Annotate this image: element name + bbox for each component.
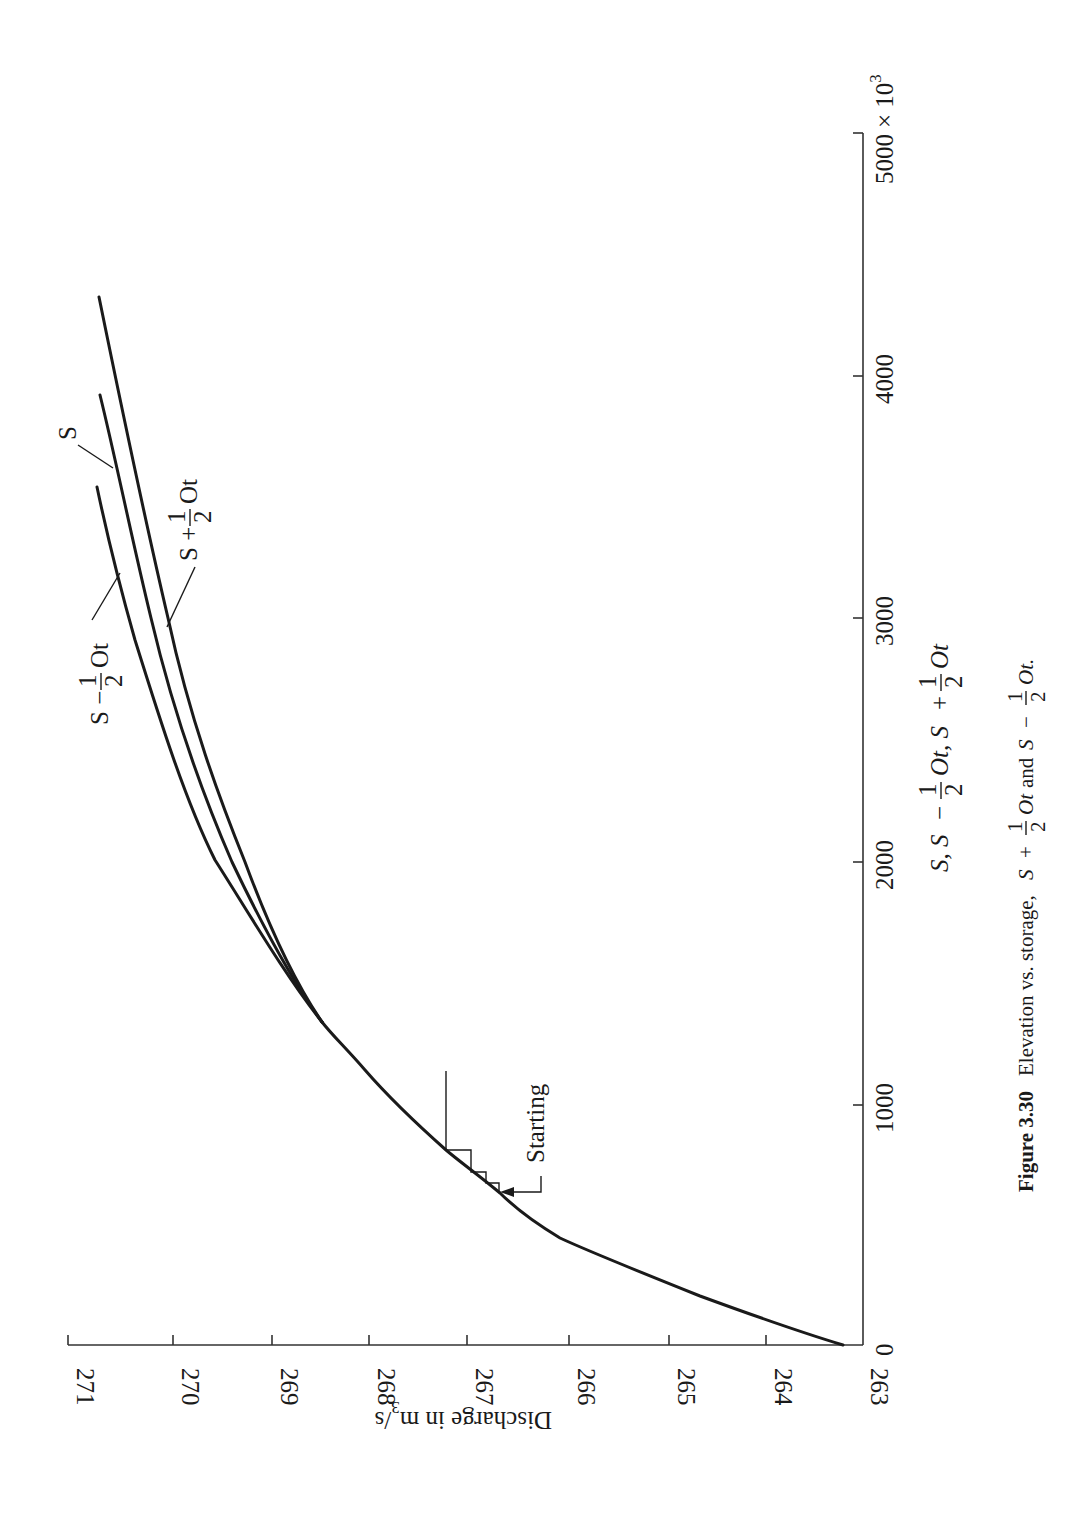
tick-4000: 4000 (871, 354, 898, 404)
starting-label: Starting (522, 1083, 549, 1163)
elevation-tick-labels: 271 270 269 268 267 266 265 264 263 (72, 1368, 893, 1406)
stair-steps (446, 1071, 499, 1193)
svg-text:S: S (1014, 869, 1038, 880)
tick-3000: 3000 (871, 596, 898, 646)
svg-text:S −: S − (86, 691, 113, 725)
caption-number: Figure 3.30 (1014, 1091, 1038, 1192)
svg-text:Ot: Ot (175, 479, 202, 504)
tick-0: 0 (871, 1344, 898, 1357)
svg-text:and: and (1014, 757, 1038, 788)
tick-5000-multiplier: 5000× 103 (866, 74, 898, 184)
plot-axes (68, 133, 863, 1345)
svg-text:2: 2 (100, 675, 127, 688)
svg-text:5000× 103: 5000× 103 (866, 74, 898, 184)
svg-text:1: 1 (1003, 692, 1027, 703)
svg-text:1: 1 (914, 676, 941, 689)
svg-text:2: 2 (1026, 822, 1050, 833)
svg-text:1: 1 (163, 511, 190, 524)
elevation-ticks (68, 1335, 766, 1345)
svg-text:+: + (926, 696, 953, 710)
storage-ticks (853, 133, 863, 1105)
tick-264: 264 (770, 1368, 797, 1406)
tick-269: 269 (276, 1368, 303, 1406)
storage-axis-label: S, S − 1 2 Ot, S + 1 2 Ot (914, 643, 967, 872)
svg-text:Ot, S: Ot, S (926, 726, 953, 777)
curve-common-lower (322, 1022, 843, 1345)
label-s-plus-half-ot: S + 1 2 Ot (163, 479, 216, 561)
svg-text:1: 1 (914, 784, 941, 797)
label-s-minus-half-ot: S − 1 2 Ot (74, 643, 127, 725)
tick-270: 270 (177, 1368, 204, 1406)
svg-text:2: 2 (1026, 692, 1050, 703)
figure-canvas: 271 270 269 268 267 266 265 264 263 Disc… (0, 0, 1066, 1513)
curves (97, 297, 843, 1345)
svg-text:S, S: S, S (926, 834, 953, 872)
tick-263: 263 (866, 1368, 893, 1406)
curve-s (100, 395, 322, 1022)
svg-text:Ot.: Ot. (1014, 659, 1038, 685)
starting-leader (510, 1176, 541, 1192)
svg-text:−: − (1014, 716, 1038, 728)
svg-text:Ot: Ot (926, 643, 953, 669)
tick-2000: 2000 (871, 840, 898, 890)
svg-text:Ot: Ot (1014, 793, 1038, 815)
svg-text:Discharge in m3/s: Discharge in m3/s (375, 1398, 552, 1434)
tick-271: 271 (72, 1368, 99, 1406)
tick-267: 267 (471, 1368, 498, 1406)
svg-text:Ot: Ot (86, 643, 113, 668)
svg-text:2: 2 (940, 676, 967, 689)
elevation-axis-label: Discharge in m3/s (375, 1398, 552, 1434)
svg-text:2: 2 (940, 784, 967, 797)
curve-s-plus-half-ot (99, 297, 322, 1022)
svg-text:S +: S + (175, 527, 202, 561)
tick-1000: 1000 (871, 1083, 898, 1133)
storage-tick-labels: 0 1000 2000 3000 4000 5000× 103 (866, 74, 898, 1356)
tick-265: 265 (673, 1368, 700, 1406)
caption-text: Elevation vs. storage, (1014, 895, 1038, 1076)
svg-text:1: 1 (1003, 822, 1027, 833)
svg-text:−: − (926, 806, 953, 820)
svg-text:1: 1 (74, 675, 101, 688)
starting-construction: Starting (446, 1071, 549, 1197)
svg-text:2: 2 (189, 511, 216, 524)
svg-text:+: + (1014, 846, 1038, 858)
svg-text:S: S (1014, 739, 1038, 750)
figure-caption: Figure 3.30 Elevation vs. storage, S + 1… (1003, 659, 1050, 1192)
tick-266: 266 (573, 1368, 600, 1406)
label-s: S (54, 426, 81, 440)
curve-s-minus-half-ot (97, 487, 322, 1022)
